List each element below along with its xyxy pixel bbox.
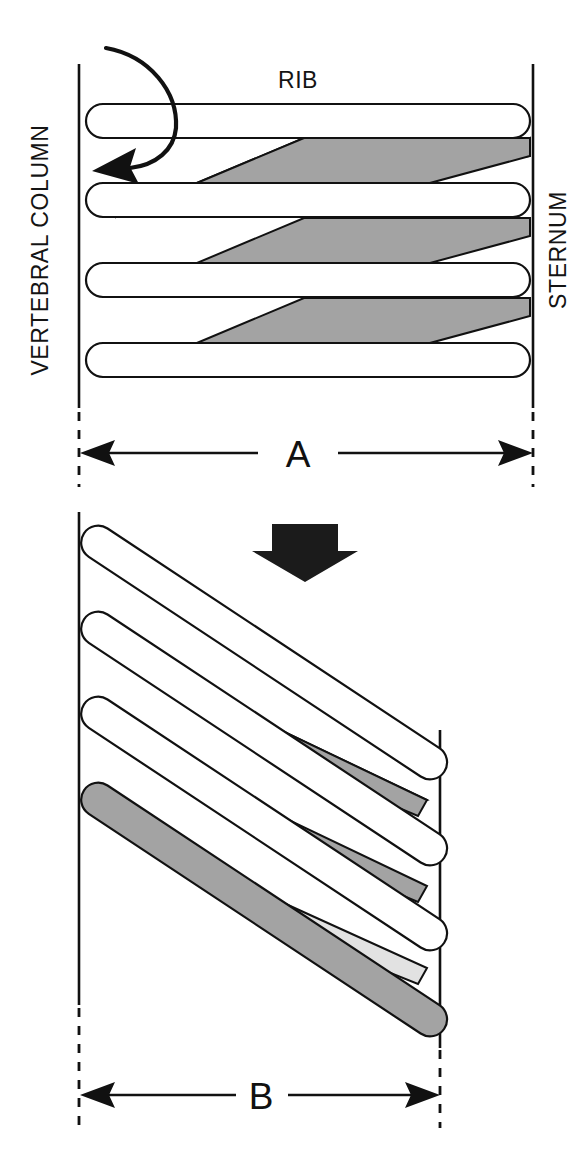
rib-label: RIB bbox=[278, 67, 318, 93]
dimension-b-label: B bbox=[249, 1076, 274, 1117]
sternum-label: STERNUM bbox=[545, 191, 571, 309]
rib-a-3 bbox=[86, 263, 530, 297]
rib-a-1 bbox=[86, 104, 530, 138]
dimension-a-label: A bbox=[286, 434, 311, 475]
rib-a-2 bbox=[86, 183, 530, 217]
vertebral-column-label: VERTEBRAL COLUMN bbox=[27, 124, 53, 375]
rib-mechanics-figure: RIB VERTEBRAL COLUMN STERNUM A bbox=[0, 0, 588, 1163]
rib-a-4 bbox=[86, 343, 530, 377]
